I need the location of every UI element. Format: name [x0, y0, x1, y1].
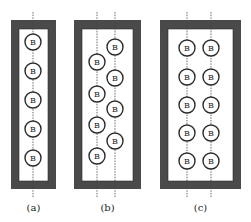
ball-label: B — [30, 154, 36, 163]
ball-arrangement-diagram: BBBBB(a)BBBBBBBB(b)BBBBBBBBBB(c) — [0, 0, 251, 222]
ball-b: B — [203, 69, 219, 85]
panel-b: BBBBBBBB(b) — [74, 12, 141, 213]
ball-label: B — [30, 125, 36, 134]
ball-label: B — [112, 137, 118, 146]
container-interior — [168, 29, 233, 181]
ball-b: B — [203, 97, 219, 113]
panel-c: BBBBBBBBBB(c) — [160, 12, 241, 213]
ball-label: B — [184, 44, 190, 53]
ball-label: B — [208, 44, 214, 53]
ball-label: B — [94, 58, 100, 67]
ball-label: B — [94, 152, 100, 161]
ball-label: B — [184, 157, 190, 166]
ball-label: B — [208, 157, 214, 166]
ball-b: B — [89, 117, 105, 133]
panel-a: BBBBB(a) — [11, 12, 56, 213]
ball-label: B — [94, 90, 100, 99]
ball-b: B — [179, 69, 195, 85]
ball-label: B — [112, 105, 118, 114]
panel-caption: (a) — [27, 202, 41, 213]
ball-label: B — [208, 101, 214, 110]
ball-label: B — [30, 38, 36, 47]
ball-b: B — [89, 86, 105, 102]
ball-label: B — [30, 67, 36, 76]
ball-label: B — [208, 129, 214, 138]
ball-b: B — [203, 125, 219, 141]
ball-label: B — [184, 101, 190, 110]
ball-label: B — [94, 121, 100, 130]
ball-b: B — [179, 153, 195, 169]
panel-caption: (c) — [194, 202, 208, 213]
ball-b: B — [179, 125, 195, 141]
ball-b: B — [25, 63, 41, 79]
ball-b: B — [25, 121, 41, 137]
ball-b: B — [203, 153, 219, 169]
ball-b: B — [89, 148, 105, 164]
ball-label: B — [112, 74, 118, 83]
ball-b: B — [179, 97, 195, 113]
ball-b: B — [179, 40, 195, 56]
ball-b: B — [107, 70, 123, 86]
panel-caption: (b) — [100, 202, 114, 213]
ball-b: B — [25, 92, 41, 108]
ball-label: B — [208, 73, 214, 82]
ball-b: B — [107, 101, 123, 117]
ball-b: B — [107, 39, 123, 55]
ball-label: B — [184, 73, 190, 82]
ball-label: B — [184, 129, 190, 138]
ball-b: B — [107, 133, 123, 149]
ball-b: B — [25, 34, 41, 50]
ball-b: B — [203, 40, 219, 56]
ball-label: B — [30, 96, 36, 105]
ball-label: B — [112, 43, 118, 52]
ball-b: B — [25, 150, 41, 166]
ball-b: B — [89, 54, 105, 70]
